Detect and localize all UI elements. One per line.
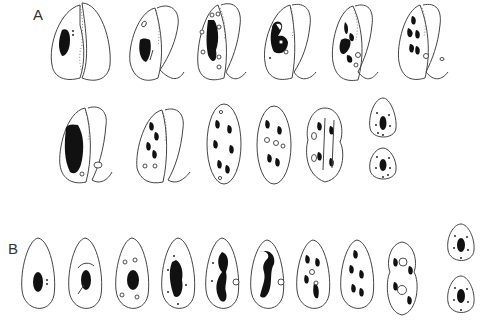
panel-a-stage-1 [51,3,110,80]
panel-a-stage-4 [264,4,316,79]
panel-b-stage-8 [341,240,374,308]
panel-b-stage-9 [387,242,417,315]
panel-a-stage-12 [370,98,396,179]
panel-b-stage-4 [162,238,195,308]
panel-b-stage-5 [206,238,239,308]
panel-b-stage-7 [297,240,330,308]
panel-b-stage-10 [448,224,474,313]
panel-a-stage-7 [60,107,112,183]
panel-a-stage-3 [198,4,246,80]
panel-b-stage-3 [116,238,149,308]
panel-b-stage-2 [69,238,102,308]
panel-b-stage-1 [22,238,55,308]
panel-a-stage-5 [332,5,378,80]
panel-a-stage-11 [307,108,343,182]
panel-a-stage-9 [207,104,241,184]
diagram-canvas [0,0,482,327]
panel-a-stage-6 [398,4,448,79]
panel-a-stage-2 [130,6,184,80]
panel-a-stage-10 [257,106,291,184]
panel-a-stage-8 [137,109,190,183]
panel-b-stage-6 [251,240,284,308]
